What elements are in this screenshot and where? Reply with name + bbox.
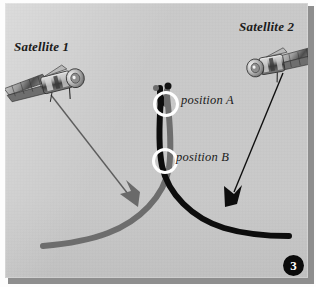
black-trajectory: [159, 98, 289, 236]
position-a-label: position A: [181, 93, 234, 108]
black-trajectory-dot: [165, 83, 172, 90]
satellite-1-pointer-line: [51, 95, 128, 194]
satellite-2-arrowhead: [224, 185, 242, 207]
gray-trajectory-dot: [153, 85, 159, 91]
satellite-1-icon: [1, 60, 89, 114]
position-b-label: position B: [176, 150, 229, 165]
satellite-1-arrowhead: [120, 180, 140, 207]
gray-trajectory: [43, 96, 170, 246]
satellite-trajectory-figure: Satellite 1 Satellite 2 position A posit…: [0, 0, 316, 287]
figure-number-badge: 3: [283, 255, 304, 276]
satellite-2-pointer-line: [234, 73, 283, 192]
satellite-2-label: Satellite 2: [239, 19, 294, 35]
satellite-1-label: Satellite 1: [14, 39, 69, 55]
